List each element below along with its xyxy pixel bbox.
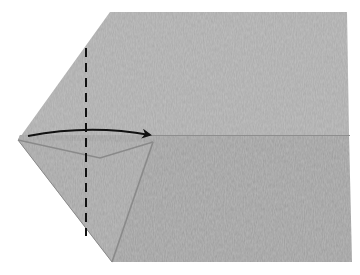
diagram-canvas — [0, 0, 360, 275]
paper-upper-half — [18, 12, 349, 140]
